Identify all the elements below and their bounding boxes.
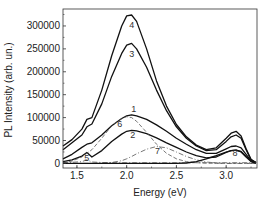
curve-5 [63,160,256,163]
y-axis-title: PL Intensity (arb. un.) [3,42,14,137]
x-tick-label: 2.5 [169,170,183,181]
y-tick-label: 0 [54,158,60,169]
pl-spectrum-chart: 1.52.02.53.0 050000100000150000200000250… [0,0,270,205]
curve-label-4: 4 [129,20,134,30]
y-tick-label: 150000 [27,89,61,100]
x-tick-label: 1.5 [70,170,84,181]
curve-label-3: 3 [129,49,134,59]
y-tick-label: 300000 [27,20,61,31]
x-axis: 1.52.02.53.0 [70,165,251,181]
y-tick-label: 200000 [27,66,61,77]
curve-label-8: 8 [233,148,238,158]
curve-label-1: 1 [131,104,136,114]
x-axis-title: Energy (eV) [133,187,186,198]
curve-label-5: 5 [84,153,89,163]
curve-label-6: 6 [117,119,122,129]
y-axis: 050000100000150000200000250000300000 [27,14,66,168]
curve-label-2: 2 [130,130,135,140]
x-tick-label: 3.0 [219,170,233,181]
curve-3 [63,43,256,162]
y-tick-label: 50000 [32,135,60,146]
curves-group [63,15,256,163]
curve-label-7: 7 [155,146,160,156]
y-tick-label: 100000 [27,112,61,123]
y-tick-label: 250000 [27,43,61,54]
x-tick-label: 2.0 [120,170,134,181]
